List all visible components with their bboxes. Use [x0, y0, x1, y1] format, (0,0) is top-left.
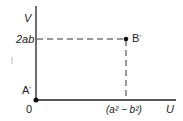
u-tick-label-a2-minus-b2: (a² − b²) [106, 104, 142, 115]
v-tick-label-2ab: 2ab [16, 34, 34, 45]
point-b-prime-label: B' [132, 33, 141, 44]
point-a-prime-label: A' [22, 85, 31, 96]
origin-label: 0 [26, 104, 32, 115]
point-b-prime [124, 37, 129, 42]
prime-mark: ' [139, 33, 141, 42]
point-a-prime [34, 98, 39, 103]
u-axis-label: U [166, 104, 174, 115]
prime-mark: ' [29, 85, 31, 94]
v-axis-label: V [24, 13, 31, 24]
